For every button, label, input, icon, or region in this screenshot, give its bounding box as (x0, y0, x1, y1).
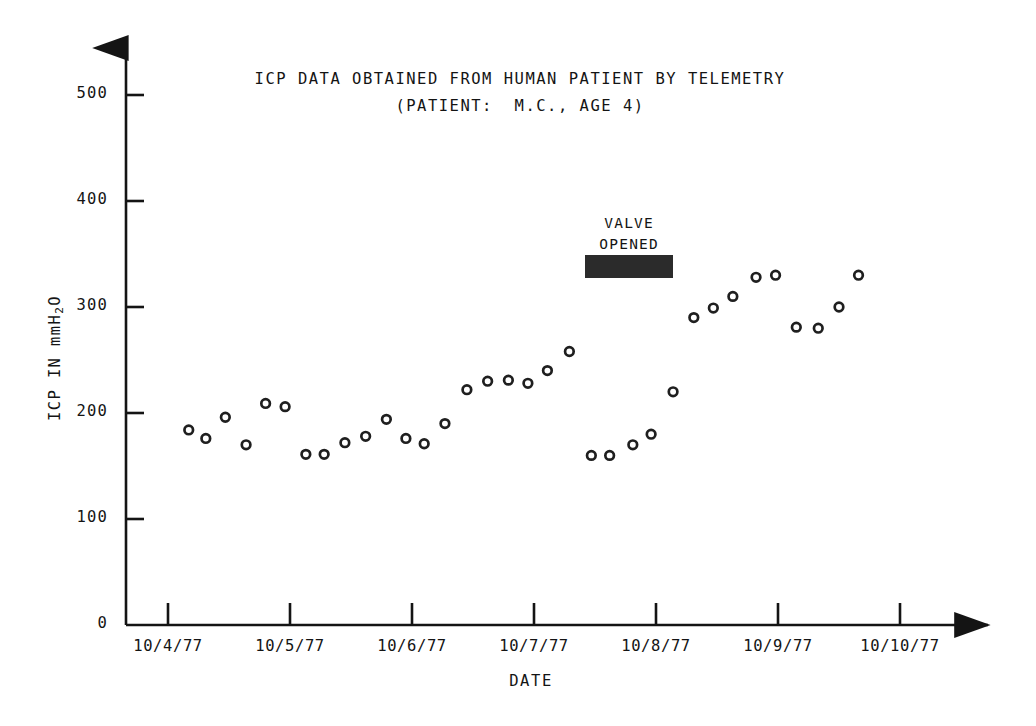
data-point (302, 450, 311, 459)
data-point (729, 292, 738, 301)
data-point (629, 441, 638, 450)
data-point (221, 413, 230, 422)
data-points (184, 271, 862, 460)
data-point (320, 450, 329, 459)
data-point (587, 451, 596, 460)
axes (126, 48, 988, 625)
data-point (792, 323, 801, 332)
x-tick-label: 10/7/77 (469, 637, 599, 655)
valve-opened-annotation: VALVE OPENED (529, 213, 729, 255)
data-point (709, 304, 718, 313)
valve-opened-line-1: VALVE (529, 213, 729, 234)
data-point (504, 376, 513, 385)
y-tick-label: 500 (60, 84, 108, 102)
y-tick-label: 0 (60, 614, 108, 632)
data-point (854, 271, 863, 280)
data-point (690, 313, 699, 322)
data-point (261, 399, 270, 408)
data-point (242, 441, 251, 450)
data-point (463, 385, 472, 394)
valve-opened-bar (585, 255, 673, 278)
data-point (483, 377, 492, 386)
data-point (647, 430, 656, 439)
x-tick-label: 10/4/77 (103, 637, 233, 655)
data-point (441, 419, 450, 428)
data-point (402, 434, 411, 443)
data-point (605, 451, 614, 460)
data-point (814, 324, 823, 333)
data-point (524, 379, 533, 388)
y-tick-label: 300 (60, 296, 108, 314)
data-point (341, 438, 350, 447)
x-tick-label: 10/9/77 (713, 637, 843, 655)
y-tick-label: 400 (60, 190, 108, 208)
data-point (565, 347, 574, 356)
data-point (835, 303, 844, 312)
plot-area (0, 0, 1036, 726)
axis-ticks (126, 95, 900, 625)
x-tick-label: 10/10/77 (835, 637, 965, 655)
data-point (543, 366, 552, 375)
x-tick-label: 10/6/77 (347, 637, 477, 655)
chart-figure: ICP DATA OBTAINED FROM HUMAN PATIENT BY … (0, 0, 1036, 726)
data-point (281, 402, 290, 411)
data-point (420, 439, 429, 448)
data-point (184, 426, 193, 435)
data-point (382, 415, 391, 424)
valve-opened-line-2: OPENED (529, 234, 729, 255)
data-point (361, 432, 370, 441)
data-point (771, 271, 780, 280)
data-point (752, 273, 761, 282)
x-tick-label: 10/5/77 (225, 637, 355, 655)
data-point (202, 434, 211, 443)
y-tick-label: 200 (60, 402, 108, 420)
y-tick-label: 100 (60, 508, 108, 526)
x-tick-label: 10/8/77 (591, 637, 721, 655)
data-point (669, 388, 678, 397)
